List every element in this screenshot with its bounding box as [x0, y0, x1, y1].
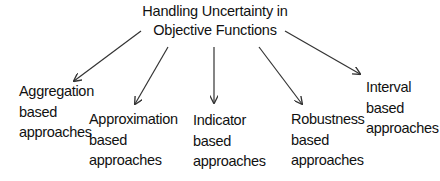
node-indicator: Indicator based approaches	[193, 110, 266, 172]
arrow-to-approximation-icon	[135, 47, 168, 104]
node-approximation-line2: based	[89, 130, 178, 151]
node-indicator-line3: approaches	[193, 151, 266, 172]
node-aggregation-line3: approaches	[19, 122, 94, 143]
node-aggregation-line2: based	[19, 102, 94, 123]
node-indicator-line1: Indicator	[193, 110, 266, 131]
node-approximation: Approximation based approaches	[89, 109, 178, 171]
node-aggregation-line1: Aggregation	[19, 81, 94, 102]
arrow-to-interval-icon	[285, 31, 360, 74]
node-approximation-line1: Approximation	[89, 109, 178, 130]
node-robustness: Robustness based approaches	[291, 109, 365, 171]
node-interval-line2: based	[366, 98, 439, 119]
node-interval-line1: Interval	[366, 77, 439, 98]
node-robustness-line3: approaches	[291, 150, 365, 171]
arrow-to-robustness-icon	[259, 47, 302, 104]
node-approximation-line3: approaches	[89, 150, 178, 171]
node-robustness-line2: based	[291, 130, 365, 151]
node-indicator-line2: based	[193, 131, 266, 152]
node-aggregation: Aggregation based approaches	[19, 81, 94, 143]
node-interval: Interval based approaches	[366, 77, 439, 139]
node-interval-line3: approaches	[366, 118, 439, 139]
arrow-to-aggregation-icon	[74, 31, 141, 81]
node-robustness-line1: Robustness	[291, 109, 365, 130]
